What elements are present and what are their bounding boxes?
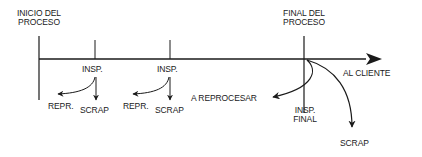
inspection-2-label: INSP. [157, 65, 178, 74]
inspection-2-scrap-label: SCRAP [155, 106, 184, 115]
final-reprocess-arrow [273, 60, 312, 97]
inspection-2-repr-arrow [133, 77, 169, 94]
final-inspection-line-2: FINAL [292, 115, 318, 124]
timeline-arrowhead-icon [366, 53, 382, 65]
start-label-line-2: PROCESO [11, 18, 67, 27]
inspection-1-repr-arrow [58, 77, 95, 94]
inspection-2-repr-label: REPR. [123, 102, 148, 111]
output-label: AL CLIENTE [343, 69, 390, 78]
end-label: FINAL DEL PROCESO [276, 9, 332, 27]
final-inspection-label: INSP. FINAL [292, 106, 318, 124]
inspection-1-scrap-label: SCRAP [80, 106, 109, 115]
inspection-1-label: INSP. [82, 65, 103, 74]
inspection-1-repr-label: REPR. [48, 102, 73, 111]
end-label-line-2: PROCESO [276, 18, 332, 27]
start-label: INICIO DEL PROCESO [11, 9, 67, 27]
final-scrap-label: SCRAP [340, 139, 369, 148]
final-reprocess-label: A REPROCESAR [191, 94, 257, 103]
